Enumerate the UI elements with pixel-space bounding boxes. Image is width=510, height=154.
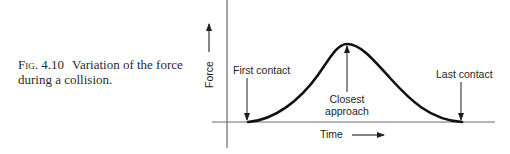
first-contact-label: First contact xyxy=(233,64,290,76)
time-axis-label: Time xyxy=(320,128,343,140)
force-axis-label: Force xyxy=(203,61,215,88)
closest-approach-label-line2: approach xyxy=(325,105,369,117)
force-time-chart: Force Time First contact Closest approac… xyxy=(0,0,510,154)
closest-approach-label-line1: Closest xyxy=(329,93,364,105)
last-contact-label: Last contact xyxy=(436,68,493,80)
